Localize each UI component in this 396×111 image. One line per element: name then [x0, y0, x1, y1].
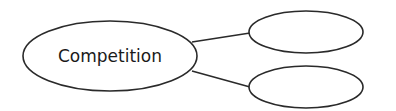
edge-center-to-branch-1	[192, 33, 250, 42]
branch-node-2	[249, 66, 363, 108]
mind-map-diagram: Competition	[0, 0, 396, 111]
center-node-label: Competition	[58, 46, 162, 66]
branch-node-1	[249, 11, 363, 53]
edge-center-to-branch-2	[192, 71, 250, 87]
